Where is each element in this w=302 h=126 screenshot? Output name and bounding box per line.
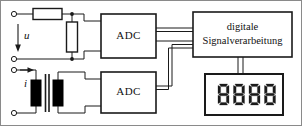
- transformer-primary-winding: [31, 80, 41, 106]
- seven-segment-b: [226, 85, 229, 93]
- seven-segment-b: [242, 85, 245, 93]
- seven-segment-e: [249, 95, 252, 103]
- seven-segment-a: [266, 84, 274, 87]
- wire-current-bottom-to-primary: [17, 106, 36, 113]
- label-adc-top: ADC: [112, 30, 145, 41]
- terminal-current-bottom: [11, 110, 16, 115]
- seven-segment-g: [234, 93, 243, 96]
- seven-segment-f: [249, 85, 252, 93]
- label-adc-bottom: ADC: [112, 86, 145, 97]
- seven-segment-f: [218, 85, 221, 93]
- seven-segment-g: [265, 93, 274, 96]
- seven-segment-c: [257, 95, 260, 103]
- transformer-secondary-winding: [53, 80, 63, 106]
- resistor-series: [33, 9, 62, 20]
- seven-segment-b: [257, 85, 260, 93]
- seven-segment-a: [219, 84, 227, 87]
- arrow-i-head: [28, 67, 35, 73]
- wire-divider-to-adc-top-plus: [72, 14, 101, 21]
- terminal-current-top: [11, 67, 16, 72]
- terminal-voltage-top: [11, 11, 16, 16]
- seven-segment-f: [234, 85, 237, 93]
- seven-segment-g: [250, 93, 259, 96]
- seven-segment-e: [265, 95, 268, 103]
- terminal-voltage-bottom: [11, 56, 16, 61]
- seven-segment-d: [219, 102, 227, 105]
- seven-segment-d: [250, 102, 258, 105]
- seven-segment-g: [219, 93, 228, 96]
- seven-segment-d: [235, 102, 243, 105]
- label-dsp-line1: digitale: [195, 21, 290, 34]
- diagram-canvas: [0, 0, 302, 126]
- bus-adc-bottom-to-dsp-line-1: [156, 45, 193, 87]
- seven-segment-e: [218, 95, 221, 103]
- seven-segment-f: [265, 85, 268, 93]
- seven-segment-c: [242, 95, 245, 103]
- seven-segment-a: [235, 84, 243, 87]
- seven-segment-d: [266, 102, 274, 105]
- seven-segment-c: [273, 95, 276, 103]
- seven-segment-b: [273, 85, 276, 93]
- label-dsp-line2: Signalverarbeitung: [195, 35, 290, 48]
- seven-segment-e: [234, 95, 237, 103]
- wire-secondary-to-adc-bottom-plus: [58, 72, 101, 80]
- wire-secondary-to-adc-bottom-minus: [58, 106, 101, 113]
- label-current-symbol: i: [24, 78, 27, 89]
- bus-adc-bottom-to-dsp-line-2: [156, 48, 193, 90]
- label-voltage-symbol: u: [24, 30, 30, 41]
- circuit-diagram-figure: ADC ADC digitale Signalverarbeitung u i: [0, 0, 302, 126]
- arrow-u-head: [15, 45, 21, 53]
- seven-segment-c: [226, 95, 229, 103]
- resistor-shunt: [67, 22, 78, 52]
- seven-segment-a: [250, 84, 258, 87]
